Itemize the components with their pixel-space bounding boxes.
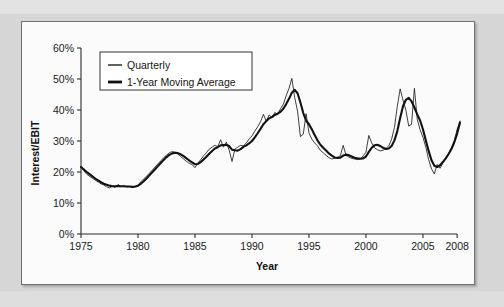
x-tick-label: 2000 [354,240,378,252]
page-bottom-band [0,291,504,307]
x-tick-label: 1995 [297,240,321,252]
x-tick-label: 1980 [126,240,150,252]
y-axis-title: Interest/EBIT [29,120,41,185]
y-tick-label: 20% [53,166,74,178]
x-tick-label: 1975 [69,240,93,252]
figure-root: 0%10%20%30%40%50%60% 1975198019851990199… [0,0,504,307]
x-axis: 19751980198519901995200020052008 [69,234,469,252]
series-1-year-moving-average [81,90,460,187]
y-axis: 0%10%20%30%40%50%60% [53,42,81,240]
legend-label-1: Quarterly [127,59,171,71]
y-tick-label: 60% [53,42,74,54]
line-chart: 0%10%20%30%40%50%60% 1975198019851990199… [22,22,474,284]
x-tick-label: 2005 [411,240,435,252]
x-axis-title: Year [256,260,278,272]
page-top-band [0,0,504,14]
x-tick-label: 2008 [445,240,469,252]
y-tick-label: 10% [53,197,74,209]
legend-label-2: 1-Year Moving Average [127,76,236,88]
chart-panel: 0%10%20%30%40%50%60% 1975198019851990199… [21,21,475,285]
chart-legend: Quarterly1-Year Moving Average [100,52,252,90]
x-tick-label: 1985 [183,240,207,252]
y-tick-label: 40% [53,104,74,116]
x-tick-label: 1990 [240,240,264,252]
y-tick-label: 50% [53,73,74,85]
y-tick-label: 0% [59,228,74,240]
series-layer [81,78,460,187]
y-tick-label: 30% [53,135,74,147]
series-quarterly [81,78,460,187]
